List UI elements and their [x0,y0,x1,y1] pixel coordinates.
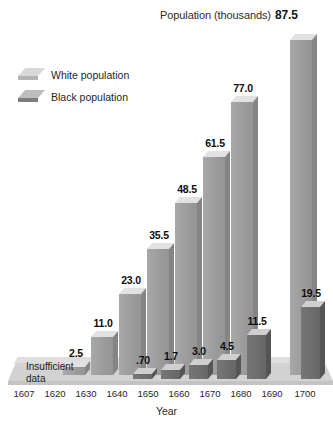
data-label-black-1700: 19.5 [295,287,327,299]
data-label-black-1680: 4.5 [213,340,241,352]
x-tick-1640: 1640 [101,388,133,399]
data-label-black-1650: .70 [129,354,157,366]
data-label-white-1660: 35.5 [144,229,174,241]
legend-label-black-population: Black population [51,91,128,103]
legend-item-black-population[interactable]: Black population [18,86,129,108]
x-tick-1630: 1630 [70,388,102,399]
data-label-white-1680: 61.5 [200,137,230,149]
bar-black-1670 [189,359,213,379]
peak-value-label: 87.5 [275,8,298,22]
data-label-white-1640: 11.0 [88,317,118,329]
x-tick-1680: 1680 [225,388,257,399]
data-label-white-1670: 48.5 [172,183,202,195]
bar-black-1700 [301,301,325,379]
chart-legend: White population Black population [18,64,129,108]
bar-black-1690 [247,329,271,379]
x-tick-1670: 1670 [194,388,226,399]
x-tick-1700: 1700 [289,388,321,399]
data-label-white-1650: 23.0 [116,274,146,286]
annotation-insufficient-data: Insufficient data [26,361,74,384]
data-label-black-1690: 11.5 [241,315,273,327]
x-tick-1620: 1620 [39,388,71,399]
legend-item-white-population[interactable]: White population [18,64,129,86]
legend-label-white-population: White population [51,69,129,81]
x-tick-1650: 1650 [132,388,164,399]
chart-title-text: Population (thousands) [160,9,271,21]
bar-black-1660 [161,364,185,379]
x-axis-title: Year [0,405,333,417]
data-label-black-1660: 1.7 [157,350,185,362]
population-bar-chart: Population (thousands)87.5 White populat… [0,0,333,428]
bar-white-1640 [91,331,118,375]
bar-black-1680 [217,354,241,379]
legend-swatch-white-icon [18,68,44,83]
legend-swatch-black-icon [18,90,44,105]
chart-title: Population (thousands)87.5 [160,8,298,22]
x-tick-1660: 1660 [163,388,195,399]
x-tick-1607: 1607 [8,388,40,399]
data-label-black-1670: 3.0 [185,345,213,357]
data-label-white-1690: 77.0 [228,82,258,94]
data-label-white-1630: 2.5 [61,347,91,359]
x-tick-1690: 1690 [256,388,288,399]
